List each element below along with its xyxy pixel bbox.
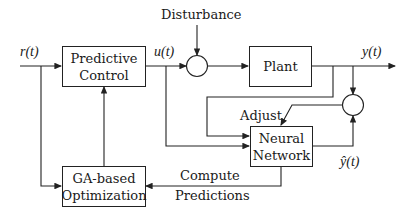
output-signal-label: y(t) (362, 44, 381, 59)
ga-optimization-label-1: GA-based (73, 170, 136, 187)
neural-network-label-1: Neural (259, 130, 305, 147)
compute-predictions-label-2: Predictions (175, 188, 250, 203)
neural-network-block: Neural Network (250, 126, 313, 167)
neural-network-label-2: Network (253, 147, 310, 164)
compute-predictions-label-1: Compute (180, 168, 240, 183)
adjust-label: Adjust (240, 108, 282, 123)
predictive-control-label-1: Predictive (71, 50, 138, 67)
plant-block: Plant (249, 46, 312, 87)
control-signal-label: u(t) (154, 44, 174, 59)
plant-label: Plant (263, 58, 297, 75)
disturbance-label: Disturbance (161, 7, 241, 22)
predicted-output-label: ŷ(t) (340, 154, 359, 169)
ga-optimization-label-2: Optimization (61, 187, 146, 204)
predictive-control-block: Predictive Control (62, 46, 146, 87)
predictive-control-label-2: Control (79, 67, 129, 84)
ga-optimization-block: GA-based Optimization (62, 166, 146, 207)
reference-signal-label: r(t) (20, 44, 39, 59)
